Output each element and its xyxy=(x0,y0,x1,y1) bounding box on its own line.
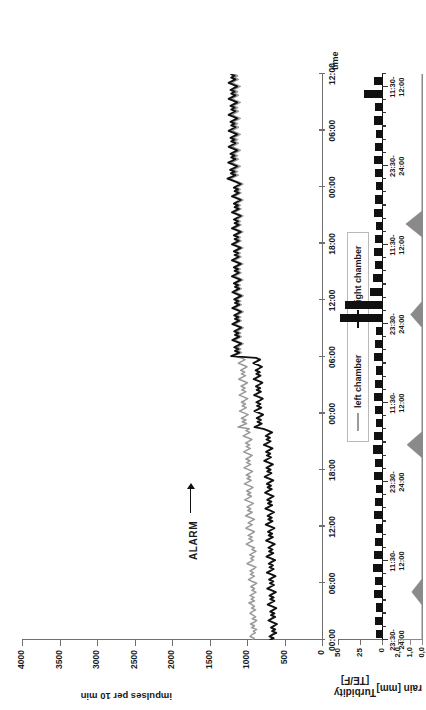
turbidity-x-tick xyxy=(382,73,386,74)
turbidity-bar xyxy=(375,459,382,467)
main-y-tick-label: 0 xyxy=(317,650,326,684)
turbidity-x-tick xyxy=(382,231,386,232)
turbidity-bar xyxy=(373,445,382,453)
main-x-tick-label: 06:00 xyxy=(328,111,337,151)
turbidity-bar xyxy=(375,195,382,203)
turbidity-bar xyxy=(376,182,382,190)
main-y-tick-label: 2500 xyxy=(130,650,139,684)
turbidity-bar xyxy=(373,564,382,572)
main-y-axis-label: impulses per 10 min xyxy=(81,691,172,702)
turbidity-bar xyxy=(375,617,382,625)
main-x-tick xyxy=(319,469,325,470)
turbidity-x-tick xyxy=(382,415,386,416)
turbidity-bar xyxy=(374,353,382,361)
rain-panel: rain [mm] 0,01,02,0 xyxy=(398,0,426,710)
turbidity-y-tick xyxy=(338,640,339,645)
main-x-tick-label: 18:00 xyxy=(328,450,337,490)
turbidity-bar xyxy=(375,235,382,243)
rain-y-tick xyxy=(410,640,411,645)
turbidity-bar xyxy=(375,261,382,269)
main-y-tick xyxy=(285,640,286,646)
turbidity-bar xyxy=(375,406,382,414)
turbidity-bar xyxy=(375,103,382,111)
turbidity-bar xyxy=(375,169,382,177)
turbidity-x-tick xyxy=(382,218,386,219)
main-x-tick xyxy=(319,525,325,526)
turbidity-bar xyxy=(376,603,382,611)
main-y-tick-label: 3000 xyxy=(92,650,101,684)
rain-y-tick-label: 2,0 xyxy=(394,647,402,669)
turbidity-x-tick xyxy=(382,99,386,100)
main-x-tick xyxy=(319,582,325,583)
turbidity-x-tick xyxy=(382,349,386,350)
turbidity-y-tick-label: 25 xyxy=(356,648,364,674)
turbidity-x-tick xyxy=(382,626,386,627)
alarm-leader-line xyxy=(190,487,191,513)
main-y-tick xyxy=(97,640,98,646)
turbidity-x-tick xyxy=(382,204,386,205)
turbidity-y-tick xyxy=(382,640,383,645)
turbidity-axis-label: Turbidity [TE/F] xyxy=(334,675,376,698)
turbidity-bar xyxy=(374,116,382,124)
turbidity-y-tick xyxy=(360,640,361,645)
main-y-tick-label: 500 xyxy=(280,650,289,684)
turbidity-bar xyxy=(376,130,382,138)
main-x-tick xyxy=(319,356,325,357)
main-x-tick-label: 06:00 xyxy=(328,337,337,377)
main-plot-area xyxy=(22,74,322,640)
turbidity-bar xyxy=(375,143,382,151)
turbidity-bar xyxy=(374,393,382,401)
figure-landscape-canvas: impulses per 10 min 05001000150020002500… xyxy=(0,0,426,710)
main-x-tick-label: 00:00 xyxy=(328,394,337,434)
turbidity-bar xyxy=(340,314,382,322)
main-y-tick xyxy=(135,640,136,646)
turbidity-bar xyxy=(375,380,382,388)
main-x-tick xyxy=(319,412,325,413)
main-y-tick-label: 2000 xyxy=(167,650,176,684)
main-y-tick xyxy=(60,640,61,646)
turbidity-x-tick xyxy=(382,139,386,140)
turbidity-x-tick xyxy=(382,534,386,535)
main-x-axis-line xyxy=(322,74,323,640)
turbidity-bar xyxy=(376,222,382,230)
turbidity-bar xyxy=(376,485,382,493)
turbidity-bar xyxy=(376,419,382,427)
turbidity-bar xyxy=(376,366,382,374)
turbidity-x-tick xyxy=(382,125,386,126)
main-x-tick xyxy=(319,129,325,130)
rain-y-tick xyxy=(398,640,399,645)
turbidity-axis-label-line1: Turbidity xyxy=(334,687,376,698)
main-y-tick xyxy=(322,640,323,646)
turbidity-bar xyxy=(376,524,382,532)
turbidity-x-tick xyxy=(382,507,386,508)
turbidity-bar xyxy=(373,274,382,282)
main-y-tick xyxy=(247,640,248,646)
main-y-tick-label: 1000 xyxy=(242,650,251,684)
alarm-annotation-label: ALARM xyxy=(188,521,199,560)
main-x-tick-label: 18:00 xyxy=(328,224,337,264)
turbidity-x-tick xyxy=(382,573,386,574)
main-x-tick xyxy=(319,242,325,243)
turbidity-axis-label-line2: [TE/F] xyxy=(341,676,369,687)
turbidity-x-tick xyxy=(382,441,386,442)
turbidity-x-tick xyxy=(382,310,386,311)
main-x-tick-label: 00:00 xyxy=(328,167,337,207)
turbidity-x-tick xyxy=(382,178,386,179)
alarm-arrow-icon xyxy=(187,483,195,489)
turbidity-x-tick xyxy=(382,297,386,298)
turbidity-bar xyxy=(370,288,382,296)
rain-axis-label: rain [mm] xyxy=(376,683,422,694)
figure-frame: impulses per 10 min 05001000150020002500… xyxy=(0,0,426,710)
main-y-tick-label: 1500 xyxy=(205,650,214,684)
rain-y-tick-label: 1,0 xyxy=(406,647,414,669)
turbidity-bar xyxy=(364,90,382,98)
main-x-tick-label: 12:00 xyxy=(328,507,337,547)
turbidity-y-tick-label: 0 xyxy=(378,648,386,674)
turbidity-x-tick xyxy=(382,547,386,548)
turbidity-bar xyxy=(374,511,382,519)
turbidity-x-tick xyxy=(382,257,386,258)
turbidity-x-tick xyxy=(382,520,386,521)
alarm-annotation: ALARM xyxy=(183,521,201,560)
main-y-tick-label: 3500 xyxy=(55,650,64,684)
turbidity-x-tick xyxy=(382,191,386,192)
